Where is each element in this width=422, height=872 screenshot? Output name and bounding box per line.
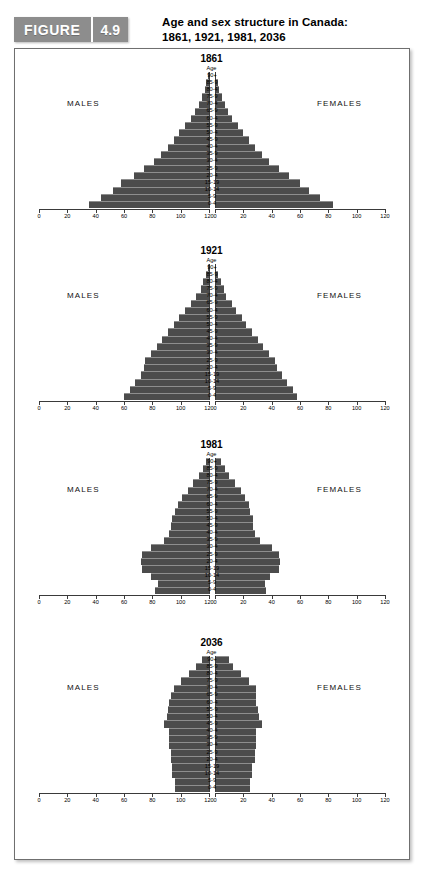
x-axis-tick-label: 0 bbox=[37, 405, 40, 411]
bar-row bbox=[215, 172, 385, 179]
age-group-label: 60-4 bbox=[187, 308, 237, 314]
age-group-label: 50-4 bbox=[187, 130, 237, 136]
x-axis-tick-label: 20 bbox=[240, 213, 246, 219]
x-axis-tick bbox=[39, 793, 40, 797]
x-axis-tick-label: 60 bbox=[297, 599, 303, 605]
x-axis-tick-label: 80 bbox=[325, 599, 331, 605]
bar-row bbox=[215, 115, 385, 122]
bar-row bbox=[215, 756, 385, 763]
x-axis-tick bbox=[243, 595, 244, 599]
bar-row bbox=[215, 763, 385, 770]
bar-row bbox=[39, 670, 209, 677]
bar-row bbox=[39, 300, 209, 307]
bar-row bbox=[39, 271, 209, 278]
age-group-label: 30-4 bbox=[187, 350, 237, 356]
x-axis-tick-label: 40 bbox=[93, 405, 99, 411]
bar-row bbox=[39, 580, 209, 587]
bar-row bbox=[39, 79, 209, 86]
bar-row bbox=[39, 144, 209, 151]
bar-row bbox=[215, 187, 385, 194]
pyramid-title: 1861 bbox=[15, 53, 408, 64]
bar-row bbox=[215, 79, 385, 86]
bar-row bbox=[215, 472, 385, 479]
x-axis-tick-label: 60 bbox=[121, 599, 127, 605]
x-axis-tick bbox=[124, 793, 125, 797]
x-axis-tick bbox=[328, 595, 329, 599]
x-axis-tick-label: 120 bbox=[204, 797, 213, 803]
x-axis-tick bbox=[385, 209, 386, 213]
bar-row bbox=[215, 706, 385, 713]
age-group-label: 80-4 bbox=[187, 279, 237, 285]
bar-row bbox=[39, 771, 209, 778]
bar-row bbox=[39, 551, 209, 558]
age-group-label: 55-9 bbox=[187, 707, 237, 713]
x-axis-tick-label: 40 bbox=[269, 213, 275, 219]
bar-row bbox=[215, 565, 385, 572]
bar-row bbox=[39, 458, 209, 465]
age-group-label: 5-9 bbox=[187, 194, 237, 200]
pyramid-chart-area: 1861AgeMALESFEMALES90+85-980-475-970-465… bbox=[15, 49, 409, 859]
bar-row bbox=[215, 465, 385, 472]
x-axis-tick-label: 60 bbox=[297, 797, 303, 803]
x-axis-tick-label: 0 bbox=[213, 405, 216, 411]
bar-row bbox=[39, 713, 209, 720]
bar-row bbox=[215, 587, 385, 594]
x-axis-tick-label: 100 bbox=[176, 405, 185, 411]
x-axis-tick bbox=[96, 595, 97, 599]
bar-row bbox=[39, 706, 209, 713]
bar-row bbox=[215, 580, 385, 587]
age-group-label: 5-9 bbox=[187, 580, 237, 586]
x-axis-tick bbox=[300, 209, 301, 213]
bar-row bbox=[39, 350, 209, 357]
age-group-label: 55-9 bbox=[187, 123, 237, 129]
bar-row bbox=[215, 86, 385, 93]
bar-row bbox=[215, 264, 385, 271]
bar-row bbox=[215, 314, 385, 321]
x-axis-tick bbox=[181, 793, 182, 797]
x-axis-tick-label: 100 bbox=[176, 213, 185, 219]
age-group-label: 85-9 bbox=[187, 466, 237, 472]
bar-row bbox=[215, 307, 385, 314]
age-group-label: 65-9 bbox=[187, 692, 237, 698]
x-axis-tick bbox=[39, 401, 40, 405]
x-axis-tick bbox=[39, 595, 40, 599]
x-axis-left: 120100806040200 bbox=[39, 209, 209, 220]
age-group-label: 85-9 bbox=[187, 80, 237, 86]
x-axis-tick bbox=[181, 401, 182, 405]
x-axis-tick-label: 100 bbox=[352, 213, 361, 219]
x-axis-tick bbox=[357, 793, 358, 797]
bar-row bbox=[39, 314, 209, 321]
figure-title-line2: 1861, 1921, 1981, 2036 bbox=[162, 30, 348, 45]
age-group-label: 80-4 bbox=[187, 671, 237, 677]
pyramid-half-males bbox=[39, 264, 209, 400]
pyramid-half-females bbox=[215, 656, 385, 792]
bar-row bbox=[215, 670, 385, 677]
pyramid-half-males bbox=[39, 458, 209, 594]
x-axis-tick-label: 120 bbox=[204, 405, 213, 411]
age-group-label: 30-4 bbox=[187, 742, 237, 748]
x-axis-tick-label: 0 bbox=[37, 213, 40, 219]
bar-row bbox=[215, 136, 385, 143]
x-axis-tick bbox=[39, 209, 40, 213]
bar-row bbox=[39, 472, 209, 479]
figure-number-label: 4.9 bbox=[91, 17, 128, 42]
x-axis-tick-label: 20 bbox=[64, 405, 70, 411]
age-group-label: 25-9 bbox=[187, 358, 237, 364]
bar-row bbox=[215, 357, 385, 364]
bar-row bbox=[39, 328, 209, 335]
bar-row bbox=[39, 285, 209, 292]
x-axis-tick-label: 80 bbox=[149, 405, 155, 411]
age-group-label: 35-9 bbox=[187, 537, 237, 543]
bar-row bbox=[215, 393, 385, 400]
bar-row bbox=[215, 158, 385, 165]
bar-row bbox=[215, 293, 385, 300]
bar-row bbox=[39, 515, 209, 522]
x-axis-tick-label: 80 bbox=[325, 797, 331, 803]
x-axis-tick bbox=[152, 595, 153, 599]
age-group-label: 0-4 bbox=[187, 785, 237, 791]
age-group-label: 75-9 bbox=[187, 480, 237, 486]
x-axis-tick-label: 40 bbox=[269, 797, 275, 803]
figure-header: FIGURE 4.9 Age and sex structure in Cana… bbox=[14, 17, 410, 50]
bar-row bbox=[215, 328, 385, 335]
x-axis-tick-label: 60 bbox=[121, 405, 127, 411]
